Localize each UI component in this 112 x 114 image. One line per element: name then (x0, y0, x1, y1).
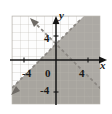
graph-figure: y x 0 -4 4 4 -4 (0, 0, 112, 114)
coordinate-plane-svg (0, 0, 112, 114)
x-axis-arrowhead (99, 56, 107, 63)
